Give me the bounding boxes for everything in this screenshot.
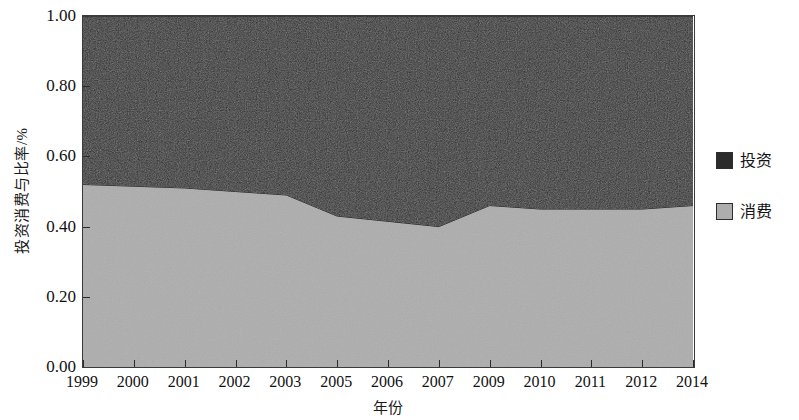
- y-tick-label: 0.80: [14, 77, 76, 94]
- legend-swatch-icon: [716, 203, 733, 220]
- x-axis-tick-labels: 1999200020012002200320052006200720092010…: [0, 372, 799, 396]
- area-series-group: [83, 16, 693, 367]
- legend-label: 消费: [740, 204, 772, 220]
- y-tick-label: 0.40: [14, 218, 76, 235]
- y-tick-label: 0.20: [14, 288, 76, 305]
- y-axis-tick-labels: 0.000.200.400.600.801.00: [8, 0, 76, 420]
- chart-legend: 投资消费: [716, 152, 796, 254]
- legend-swatch-icon: [716, 152, 733, 169]
- y-tick-label: 0.60: [14, 147, 76, 164]
- x-axis-title: 年份: [82, 396, 694, 417]
- plot-svg: [83, 16, 694, 367]
- y-tick-label: 1.00: [14, 7, 76, 24]
- legend-entry[interactable]: 投资: [716, 152, 796, 169]
- legend-entry[interactable]: 消费: [716, 203, 796, 220]
- plot-area: [82, 15, 695, 368]
- legend-label: 投资: [740, 153, 772, 169]
- stacked-area-chart: 投资消费与比率/% 0.000.200.400.600.801.00: [0, 0, 799, 420]
- x-tick-label: 2014: [662, 372, 722, 392]
